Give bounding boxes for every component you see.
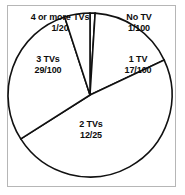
slice-label-3-tvs-value: 29/100 bbox=[19, 65, 77, 76]
slice-label-2-tvs-name: 2 TVs bbox=[62, 119, 120, 130]
slice-label-2-tvs-value: 12/25 bbox=[62, 130, 120, 141]
slice-label-4-or-more-tvs-name: 4 or more TVs bbox=[19, 12, 101, 23]
slice-label-3-tvs: 3 TVs 29/100 bbox=[19, 54, 77, 76]
slice-label-1-tv-name: 1 TV bbox=[109, 54, 167, 65]
pie-slice-group bbox=[8, 13, 172, 177]
slice-label-no-tv-name: No TV bbox=[110, 12, 168, 23]
slice-label-3-tvs-name: 3 TVs bbox=[19, 54, 77, 65]
slice-label-no-tv: No TV 1/100 bbox=[110, 12, 168, 34]
slice-label-no-tv-value: 1/100 bbox=[110, 23, 168, 34]
slice-label-2-tvs: 2 TVs 12/25 bbox=[62, 119, 120, 141]
slice-label-1-tv-value: 17/100 bbox=[109, 65, 167, 76]
slice-label-4-or-more-tvs: 4 or more TVs 1/20 bbox=[19, 12, 101, 34]
slice-label-4-or-more-tvs-value: 1/20 bbox=[19, 23, 101, 34]
pie-chart-figure: No TV 1/100 1 TV 17/100 2 TVs 12/25 3 TV… bbox=[0, 0, 185, 195]
slice-label-1-tv: 1 TV 17/100 bbox=[109, 54, 167, 76]
